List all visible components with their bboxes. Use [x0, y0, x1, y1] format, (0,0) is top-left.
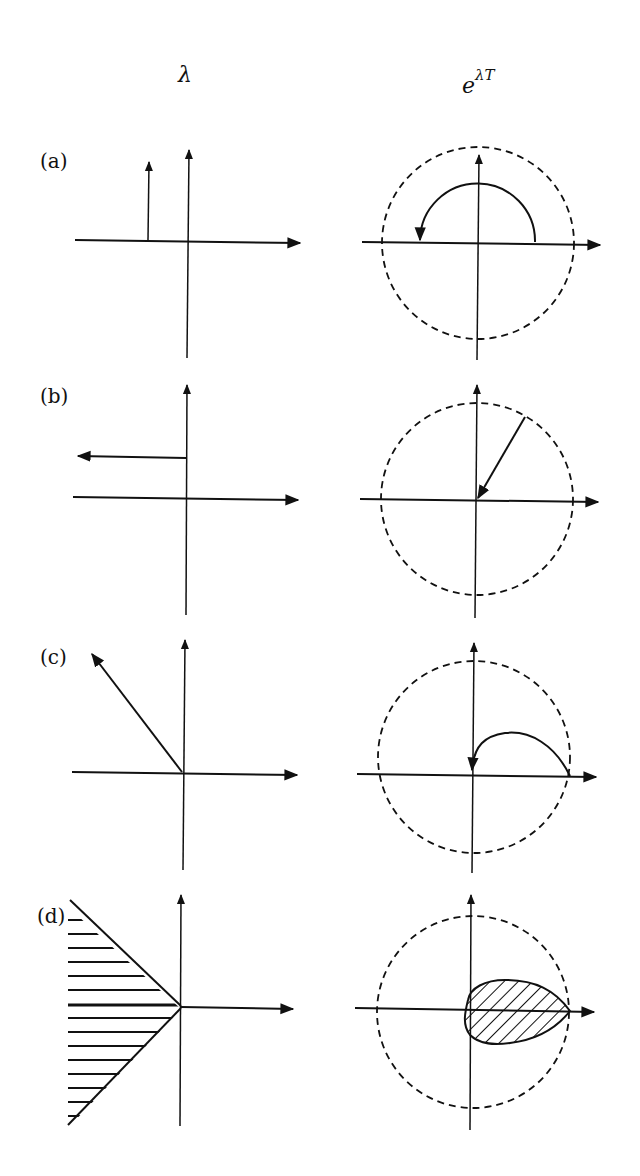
- imag-axis: [475, 385, 477, 618]
- image-path-radial: [478, 417, 525, 498]
- unit-circle-plane-c: [357, 643, 596, 873]
- imag-axis: [183, 640, 185, 870]
- lambda-plane-d: [68, 895, 293, 1126]
- row-label-c: (c): [40, 645, 67, 669]
- real-axis: [362, 242, 600, 245]
- unit-circle-plane-a: [362, 147, 600, 360]
- image-path-spiral: [472, 733, 570, 776]
- imag-axis: [187, 150, 189, 358]
- unit-circle-plane-b: [360, 385, 598, 618]
- real-axis: [181, 1007, 293, 1009]
- teardrop-region: [465, 980, 570, 1044]
- lambda-plane-a: [75, 150, 300, 358]
- svg-text:e: e: [462, 73, 475, 98]
- row-b: (b): [40, 384, 598, 618]
- row-a: (a): [40, 147, 600, 360]
- imag-axis: [180, 895, 181, 1126]
- lambda-plane-c: [72, 640, 297, 870]
- row-d: (d): [37, 895, 594, 1130]
- sector-lower-edge: [68, 1008, 181, 1125]
- imag-axis: [186, 385, 187, 615]
- eigenvalue-path: [78, 456, 186, 458]
- imag-axis: [477, 155, 479, 360]
- lambda-plane-b: [73, 385, 298, 615]
- row-label-d: (d): [37, 904, 65, 928]
- real-axis: [357, 774, 596, 777]
- real-axis: [73, 497, 298, 500]
- svg-text:λT: λT: [474, 66, 496, 84]
- eigenvalue-mapping-figure: λ e λT (a) (b): [0, 0, 640, 1176]
- row-label-a: (a): [40, 149, 68, 173]
- row-c: (c): [40, 640, 596, 873]
- unit-circle-plane-d: [355, 895, 594, 1130]
- stability-sector-hatching: [68, 905, 190, 1116]
- eigenvalue-path: [92, 654, 182, 772]
- row-label-b: (b): [40, 384, 68, 408]
- exp-column-title: e λT: [462, 66, 496, 98]
- real-axis: [360, 499, 598, 502]
- eigenvalue-path: [148, 162, 149, 240]
- lambda-column-title: λ: [177, 62, 192, 87]
